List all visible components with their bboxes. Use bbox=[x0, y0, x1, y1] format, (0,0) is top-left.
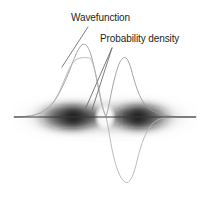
wavefunction-label: Wavefunction bbox=[71, 12, 130, 23]
curves-layer bbox=[0, 0, 210, 205]
probability-density-curve bbox=[14, 44, 196, 117]
probability-density-leader-line-secondary bbox=[92, 48, 112, 110]
wavefunction-curve bbox=[14, 58, 196, 183]
probability-density-label: Probability density bbox=[100, 33, 179, 44]
wavefunction-probability-density-figure: Wavefunction Probability density bbox=[0, 0, 210, 205]
